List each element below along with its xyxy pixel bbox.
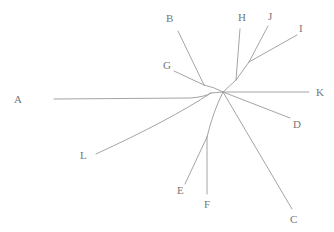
branch-D	[223, 92, 290, 118]
taxon-label-g: G	[163, 59, 171, 71]
taxon-label-i: I	[299, 22, 303, 34]
branch-E	[185, 137, 207, 184]
branch-B	[178, 31, 204, 85]
taxon-label-e: E	[177, 184, 184, 196]
tree-canvas: ABCDEFGHIJKL	[0, 0, 334, 232]
branch-ji-hji	[236, 62, 249, 80]
branch-al-hub	[211, 92, 223, 93]
branch-hji-hub	[223, 80, 236, 92]
taxon-label-d: D	[293, 118, 301, 130]
taxon-label-l: L	[80, 149, 87, 161]
phylogenetic-tree-figure: ABCDEFGHIJKL	[0, 0, 334, 232]
taxon-label-k: K	[316, 86, 324, 98]
taxon-label-f: F	[204, 198, 210, 210]
taxon-label-b: B	[166, 12, 173, 24]
taxon-label-j: J	[268, 10, 273, 22]
branch-G	[174, 71, 204, 85]
taxon-label-a: A	[14, 93, 22, 105]
branch-H	[236, 29, 240, 80]
branch-L	[96, 93, 211, 154]
branch-bg-hub	[204, 85, 223, 92]
branch-A	[54, 93, 211, 99]
taxon-label-c: C	[290, 213, 297, 225]
branch-ef-hub	[207, 92, 223, 137]
branch-C	[223, 92, 292, 209]
taxon-label-h: H	[238, 11, 246, 23]
branch-layer	[54, 26, 309, 209]
